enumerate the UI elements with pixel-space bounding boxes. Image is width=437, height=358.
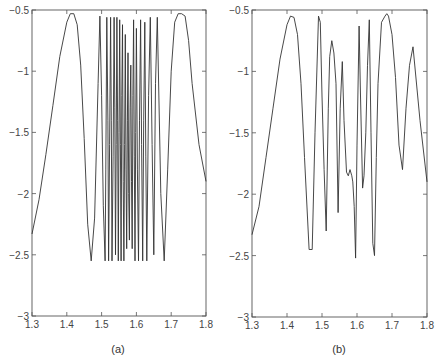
y-tick-label: −0.5: [9, 5, 29, 16]
y-tick-label: −1: [238, 66, 250, 77]
y-tick-label: −3: [238, 312, 250, 323]
y-tick-label: −2: [18, 189, 30, 200]
y-tick-label: −2: [238, 189, 250, 200]
x-tick-label: 1.8: [420, 320, 434, 331]
y-tick-label: −3: [18, 311, 30, 322]
y-tick-label: −0.5: [229, 5, 249, 16]
y-tick-label: −1.5: [9, 127, 29, 138]
caption-a: (a): [111, 343, 124, 355]
figure: 1.31.41.51.61.71.8−3−2.5−2−1.5−1−0.5 (a)…: [0, 0, 437, 358]
y-tick-label: −2.5: [9, 250, 29, 261]
data-line-a: [32, 14, 206, 261]
data-line-b: [252, 14, 427, 258]
x-tick-label: 1.5: [95, 319, 109, 330]
chart-a: 1.31.41.51.61.71.8−3−2.5−2−1.5−1−0.5 (a): [9, 5, 213, 355]
chart-b: 1.31.41.51.61.71.8−3−2.5−2−1.5−1−0.5 (b): [229, 5, 434, 355]
x-tick-label: 1.6: [350, 320, 364, 331]
x-tick-label: 1.4: [280, 320, 294, 331]
x-tick-label: 1.6: [129, 319, 143, 330]
x-tick-label: 1.5: [315, 320, 329, 331]
y-tick-label: −1.5: [229, 128, 249, 139]
axis-ticks-b: 1.31.41.51.61.71.8−3−2.5−2−1.5−1−0.5: [229, 5, 434, 331]
x-tick-label: 1.7: [385, 320, 399, 331]
caption-b: (b): [332, 343, 345, 355]
y-tick-label: −1: [18, 66, 30, 77]
y-tick-label: −2.5: [229, 251, 249, 262]
x-tick-label: 1.4: [60, 319, 74, 330]
x-tick-label: 1.7: [164, 319, 178, 330]
x-tick-label: 1.8: [199, 319, 213, 330]
